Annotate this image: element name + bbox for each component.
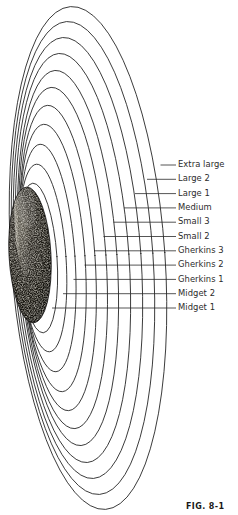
size-label-5: Small 3 (178, 217, 210, 226)
size-label-1: Extra large (178, 160, 225, 169)
pickle-size-grading-diagram (0, 0, 238, 515)
size-label-7: Gherkins 3 (178, 246, 224, 255)
size-label-9: Gherkins 1 (178, 275, 224, 284)
figure-container: Extra largeLarge 2Large 1MediumSmall 3Sm… (0, 0, 238, 515)
size-label-10: Midget 2 (178, 289, 215, 298)
figure-caption: FIG. 8-1 (186, 502, 225, 511)
size-label-6: Small 2 (178, 232, 210, 241)
size-label-2: Large 2 (178, 174, 210, 183)
size-label-4: Medium (178, 203, 212, 212)
size-label-11: Midget 1 (178, 303, 215, 312)
size-label-3: Large 1 (178, 189, 210, 198)
size-label-8: Gherkins 2 (178, 260, 224, 269)
